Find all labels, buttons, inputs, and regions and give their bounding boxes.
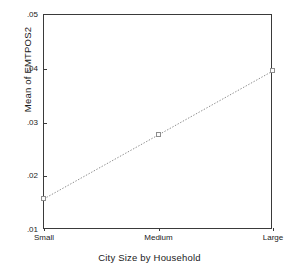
- chart-figure: Mean of EMTPOS2 .05.04.03.02.01 SmallMed…: [0, 0, 299, 279]
- plot-area: .05.04.03.02.01 SmallMediumLarge: [43, 14, 272, 229]
- data-point-marker: [41, 196, 46, 201]
- x-tick-label: Large: [263, 233, 283, 242]
- x-axis-title: City Size by Household: [0, 252, 299, 263]
- y-tick-label-text: .04: [27, 64, 38, 73]
- y-tick-label-text: .02: [27, 171, 38, 180]
- y-tick-label-text: .05: [27, 10, 38, 19]
- series-line: [44, 15, 273, 230]
- x-tick-mark: [273, 228, 274, 231]
- data-point-marker: [156, 132, 161, 137]
- y-tick-label-text: .03: [27, 118, 38, 127]
- data-point-marker: [270, 68, 275, 73]
- x-tick-label: Small: [34, 233, 54, 242]
- x-tick-label: Medium: [144, 233, 172, 242]
